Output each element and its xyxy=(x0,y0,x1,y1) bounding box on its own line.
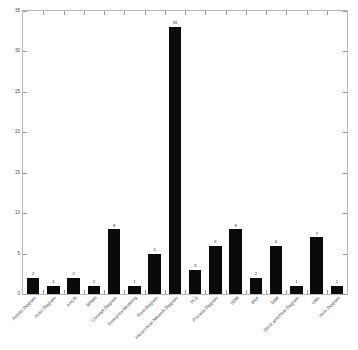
bar-group: 8 xyxy=(229,11,242,294)
y-tick-label: 15 xyxy=(15,170,20,175)
y-tick-label: 35 xyxy=(15,9,20,14)
bar xyxy=(270,246,283,295)
y-tick-label: 25 xyxy=(15,90,20,95)
bar-group: 2 xyxy=(250,11,263,294)
x-axis-label: SNA xyxy=(250,296,260,306)
bar-value-label: 6 xyxy=(214,240,216,244)
y-tick-mark xyxy=(23,294,27,295)
bar xyxy=(67,278,80,294)
bar-value-label: 3 xyxy=(194,264,196,268)
x-axis-label: BPMN xyxy=(86,296,98,308)
bar-group: 6 xyxy=(209,11,222,294)
bar xyxy=(310,237,323,294)
x-axis-label: Hierarchical Network Diagram xyxy=(135,296,179,340)
bar xyxy=(331,286,344,294)
bar-value-label: 2 xyxy=(72,272,74,276)
x-axis-label: AHCN xyxy=(66,296,78,308)
bar-value-label: 1 xyxy=(93,280,95,284)
bar-group: 1 xyxy=(47,11,60,294)
bar-value-label: 2 xyxy=(32,272,34,276)
y-tick-label: 0 xyxy=(17,292,20,297)
y-tick-label: 10 xyxy=(15,211,20,216)
plot-area: 05101520253035 21218153336826171 xyxy=(22,10,348,295)
y-tick-label: 5 xyxy=(17,251,20,256)
bar xyxy=(169,27,182,294)
bar xyxy=(128,286,141,294)
bar-value-label: 1 xyxy=(52,280,54,284)
bar xyxy=(290,286,303,294)
bar-group: 1 xyxy=(128,11,141,294)
bar-chart-figure: 05101520253035 21218153336826171 Activit… xyxy=(0,0,358,350)
bar-group: 33 xyxy=(169,11,182,294)
bar-group: 5 xyxy=(148,11,161,294)
bar-value-label: 1 xyxy=(336,280,338,284)
bar-group: 7 xyxy=(310,11,323,294)
bar-group: 2 xyxy=(67,11,80,294)
x-axis-label: Actor Diagram xyxy=(35,296,58,319)
bar-value-label: 33 xyxy=(172,21,177,25)
x-axis-label: SSM xyxy=(270,296,280,306)
bar-value-label: 8 xyxy=(113,224,115,228)
x-axis-label: UML xyxy=(311,296,321,306)
bar xyxy=(27,278,40,294)
bar xyxy=(250,278,263,294)
bar-group: 8 xyxy=(108,11,121,294)
bar xyxy=(148,254,161,294)
x-axis-label: SDM xyxy=(230,296,240,306)
bar-value-label: 5 xyxy=(153,248,155,252)
bar-value-label: 8 xyxy=(234,224,236,228)
bars-layer: 21218153336826171 xyxy=(23,11,347,294)
bar xyxy=(189,270,202,294)
x-axis-labels: Activity DiagramActor DiagramAHCNBPMNCon… xyxy=(22,296,348,350)
bar-group: 1 xyxy=(290,11,303,294)
bar xyxy=(108,229,121,294)
bar-value-label: 2 xyxy=(255,272,257,276)
x-axis-label: Venn Diagram xyxy=(318,296,341,319)
x-axis-label: Activity Diagram xyxy=(12,296,38,322)
bar xyxy=(209,246,222,295)
bar-group: 1 xyxy=(331,11,344,294)
bar-value-label: 1 xyxy=(295,280,297,284)
y-tick-mark-mirror xyxy=(343,294,347,295)
bar-value-label: 6 xyxy=(275,240,277,244)
bar xyxy=(88,286,101,294)
bar-group: 3 xyxy=(189,11,202,294)
bar xyxy=(47,286,60,294)
bar xyxy=(229,229,242,294)
bar-value-label: 1 xyxy=(133,280,135,284)
y-tick-label: 30 xyxy=(15,49,20,54)
bar-value-label: 7 xyxy=(315,232,317,236)
x-axis-label: PLS xyxy=(190,296,199,305)
bar-group: 2 xyxy=(27,11,40,294)
bar-group: 1 xyxy=(88,11,101,294)
y-tick-label: 20 xyxy=(15,130,20,135)
bar-group: 6 xyxy=(270,11,283,294)
